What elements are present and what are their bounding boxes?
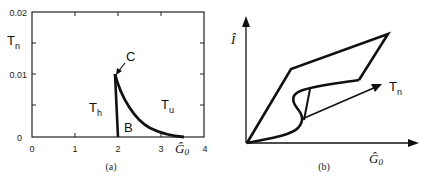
upper-sheet-edge xyxy=(247,34,388,143)
y-axis-arrow-icon xyxy=(242,16,250,27)
panel-b-surface-schematic: Tn Î Ĝ0 (b) xyxy=(212,0,425,179)
fold-curve xyxy=(247,80,359,143)
y-tick-0.02: 0.02 xyxy=(9,8,27,18)
y-ticks xyxy=(32,43,204,105)
x-tick-1: 1 xyxy=(72,144,77,154)
x-axis-arrow-icon xyxy=(408,139,419,147)
caption-b: (b) xyxy=(318,161,330,173)
caption-a: (a) xyxy=(105,161,116,173)
x-axis-title: Ĝ0 xyxy=(369,151,383,167)
tn-label: Tn xyxy=(389,79,402,97)
x-tick-0: 0 xyxy=(29,144,34,154)
y-tick-0: 0 xyxy=(17,133,22,143)
label-tu: Tu xyxy=(161,97,174,115)
x-tick-2: 2 xyxy=(115,144,120,154)
label-c: C xyxy=(126,49,135,64)
y-tick-0.01: 0.01 xyxy=(9,70,27,80)
label-th: Th xyxy=(89,100,102,118)
panel-b-svg: Tn Î Ĝ0 (b) xyxy=(212,0,425,179)
y-axis-title: Î xyxy=(230,32,237,47)
panel-a-phase-diagram: 0 1 2 3 4 0.02 0.01 0 Tn Ĝ0 C Th B Tu (a… xyxy=(0,0,212,179)
label-b: B xyxy=(124,120,133,135)
x-tick-4: 4 xyxy=(202,144,207,154)
x-axis-title: Ĝ0 xyxy=(175,141,189,157)
panel-a-svg: 0 1 2 3 4 0.02 0.01 0 Tn Ĝ0 C Th B Tu (a… xyxy=(0,0,212,179)
tn-axis xyxy=(302,87,376,119)
c-arrowhead-icon xyxy=(116,68,122,75)
x-tick-3: 3 xyxy=(158,144,163,154)
y-axis-title: Tn xyxy=(7,33,20,51)
